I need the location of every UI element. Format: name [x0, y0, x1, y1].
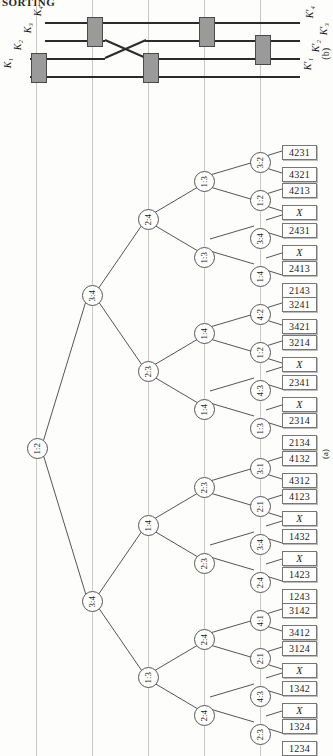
- tree-node-label: 2:1: [256, 501, 265, 513]
- tree-node-d4-1[interactable]: 1:2: [250, 190, 271, 211]
- tree-leaf[interactable]: 1234: [282, 741, 317, 756]
- tree-node-label: 1:3: [144, 672, 153, 684]
- tree-leaf-label: 3412: [289, 628, 310, 638]
- tree-node-d4-6[interactable]: 4:3: [250, 380, 271, 401]
- tree-leaf[interactable]: 1324: [282, 719, 317, 734]
- tree-leaf[interactable]: 1423: [282, 567, 317, 582]
- tree-leaf[interactable]: X: [282, 663, 317, 678]
- tree-node-label: 3:2: [256, 157, 265, 169]
- tree-node-d4-10[interactable]: 3:4: [250, 534, 271, 555]
- tree-leaf[interactable]: 3421: [282, 319, 317, 334]
- tree-leaf-label: 2341: [289, 378, 310, 388]
- tree-leaf[interactable]: X: [282, 397, 317, 412]
- network-wire-4: [45, 22, 300, 24]
- tree-node-d4-2[interactable]: 3:4: [250, 228, 271, 249]
- tree-node-d4-12[interactable]: 4:1: [250, 610, 271, 631]
- input-label-k3: K₃: [23, 23, 33, 33]
- comparator-4: [199, 17, 215, 47]
- tree-leaf[interactable]: 3214: [282, 335, 317, 350]
- tree-leaf[interactable]: 4123: [282, 489, 317, 504]
- tree-leaf[interactable]: 2314: [282, 413, 317, 428]
- tree-leaf[interactable]: 2431: [282, 223, 317, 238]
- decision-tree-figure: 1:2 3:4 3:4 2:4 2:3 1:4 1:3 1:3 1:3 1:4 …: [0, 112, 333, 756]
- tree-node-d2-0[interactable]: 2:4: [138, 209, 159, 230]
- tree-leaf[interactable]: 4231: [282, 145, 317, 160]
- tree-leaf[interactable]: 2341: [282, 375, 317, 390]
- tree-node-d4-7[interactable]: 1:3: [250, 418, 271, 439]
- tree-node-d3-3[interactable]: 1:4: [194, 399, 215, 420]
- tree-node-d3-4[interactable]: 2:3: [194, 477, 215, 498]
- tree-node-d1-1[interactable]: 3:4: [82, 591, 103, 612]
- tree-leaf[interactable]: 2134: [282, 435, 317, 450]
- network-wire-2b: [145, 58, 300, 60]
- tree-leaf[interactable]: 1342: [282, 681, 317, 696]
- tree-leaf[interactable]: 1432: [282, 529, 317, 544]
- tree-node-d3-0[interactable]: 1:3: [194, 171, 215, 192]
- tree-node-d4-14[interactable]: 4:3: [250, 686, 271, 707]
- tree-leaf-label: 1234: [289, 744, 310, 754]
- tree-node-label: 3:4: [256, 539, 265, 551]
- tree-node-d3-1[interactable]: 1:3: [194, 247, 215, 268]
- tree-leaf-label: 1432: [289, 532, 310, 542]
- tree-node-d3-7[interactable]: 2:4: [194, 705, 215, 726]
- tree-leaf[interactable]: 3142: [282, 603, 317, 618]
- input-label-k1: K₁: [3, 58, 13, 68]
- tree-node-d2-1[interactable]: 2:3: [138, 361, 159, 382]
- tree-node-label: 2:4: [256, 577, 265, 589]
- tree-leaf[interactable]: 4132: [282, 451, 317, 466]
- tree-leaf[interactable]: 2413: [282, 261, 317, 276]
- tree-node-label: 1:2: [256, 347, 265, 359]
- tree-node-d4-3[interactable]: 1:4: [250, 266, 271, 287]
- tree-node-label: 1:3: [256, 423, 265, 435]
- tree-leaf[interactable]: X: [282, 551, 317, 566]
- output-label-k3: K′₃: [319, 23, 329, 35]
- tree-node-d1-0[interactable]: 3:4: [82, 285, 103, 306]
- tree-node-label: 1:3: [200, 176, 209, 188]
- tree-leaf[interactable]: X: [282, 703, 317, 718]
- tree-node-label: 2:3: [200, 482, 209, 494]
- tree-leaf-label: 2431: [289, 226, 310, 236]
- tree-node-d4-15[interactable]: 2:3: [250, 724, 271, 745]
- tree-leaf-label: 4123: [289, 492, 310, 502]
- tree-node-label: 4:2: [256, 309, 265, 321]
- tree-leaf[interactable]: 4321: [282, 167, 317, 182]
- tree-node-label: 1:2: [33, 443, 42, 455]
- tree-leaf-label: X: [296, 400, 302, 410]
- tree-leaf[interactable]: 1243: [282, 589, 317, 604]
- input-label-k2: K₂: [13, 40, 23, 50]
- tree-node-d4-8[interactable]: 3:1: [250, 458, 271, 479]
- figure-a-caption: (a): [320, 449, 330, 459]
- tree-node-label: 3:4: [88, 596, 97, 608]
- tree-leaf[interactable]: X: [282, 357, 317, 372]
- tree-node-label: 3:4: [88, 290, 97, 302]
- tree-leaf[interactable]: 4312: [282, 473, 317, 488]
- tree-leaf-label: 3214: [289, 338, 310, 348]
- tree-node-d4-5[interactable]: 1:2: [250, 342, 271, 363]
- tree-node-d4-4[interactable]: 4:2: [250, 304, 271, 325]
- tree-node-label: 3:1: [256, 463, 265, 475]
- tree-leaf-label: 3142: [289, 606, 310, 616]
- tree-node-d2-3[interactable]: 1:3: [138, 667, 159, 688]
- tree-node-d4-9[interactable]: 2:1: [250, 496, 271, 517]
- tree-node-d4-0[interactable]: 3:2: [250, 152, 271, 173]
- tree-node-d2-2[interactable]: 1:4: [138, 515, 159, 536]
- output-label-k1: K′₁: [303, 58, 313, 70]
- tree-leaf[interactable]: X: [282, 245, 317, 260]
- tree-leaf[interactable]: 2143: [282, 283, 317, 298]
- tree-leaf[interactable]: 3412: [282, 625, 317, 640]
- tree-node-d3-5[interactable]: 2:3: [194, 553, 215, 574]
- tree-node-label: 4:3: [256, 691, 265, 703]
- tree-node-d4-13[interactable]: 2:1: [250, 648, 271, 669]
- tree-leaf[interactable]: X: [282, 511, 317, 526]
- tree-node-label: 1:2: [256, 195, 265, 207]
- tree-leaf[interactable]: 3124: [282, 641, 317, 656]
- tree-node-d3-2[interactable]: 1:4: [194, 323, 215, 344]
- tree-leaf[interactable]: X: [282, 205, 317, 220]
- tree-leaf[interactable]: 3241: [282, 297, 317, 312]
- tree-node-d4-11[interactable]: 2:4: [250, 572, 271, 593]
- tree-node-d3-6[interactable]: 2:4: [194, 629, 215, 650]
- comparator-5: [255, 35, 271, 65]
- tree-node-root[interactable]: 1:2: [27, 438, 48, 459]
- tree-leaf[interactable]: 4213: [282, 183, 317, 198]
- tree-leaf-label: 3124: [289, 644, 310, 654]
